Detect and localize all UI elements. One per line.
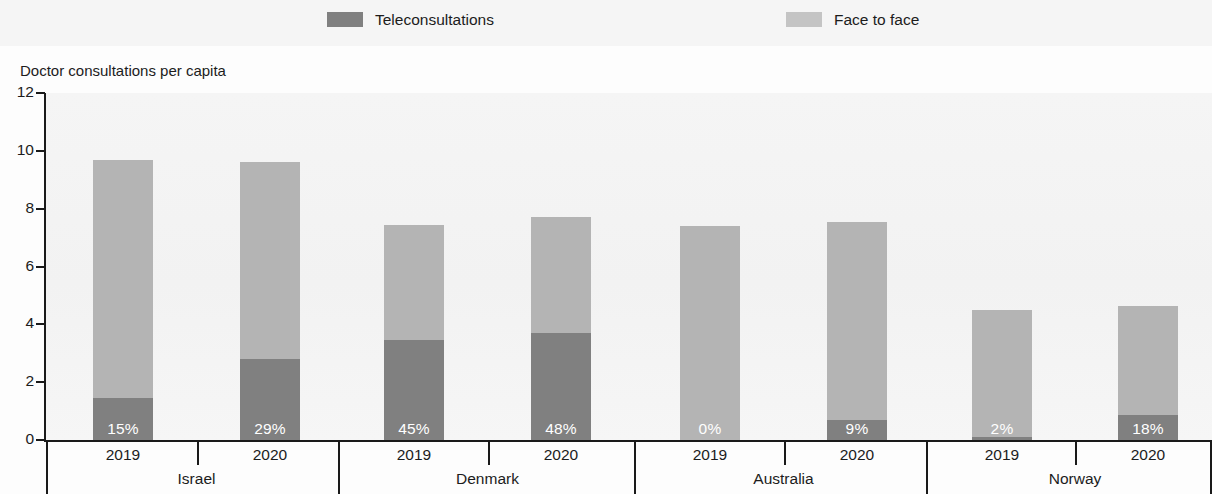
bar-israel-2019: 15% — [93, 160, 153, 440]
bar-segment-face-to-face — [972, 310, 1032, 438]
x-axis-group-label-denmark: Denmark — [398, 470, 578, 488]
bar-percentage-label: 0% — [680, 420, 740, 437]
x-axis-minor-separator — [784, 442, 786, 465]
x-axis-year-label-denmark-2020: 2020 — [511, 446, 611, 464]
bar-segment-face-to-face — [240, 162, 300, 359]
y-axis-tick — [36, 323, 45, 325]
bar-percentage-label: 48% — [531, 420, 591, 437]
bar-australia-2020: 9% — [827, 222, 887, 440]
x-axis-minor-separator — [1075, 442, 1077, 465]
bar-norway-2019: 2% — [972, 310, 1032, 440]
x-axis-year-label-norway-2019: 2019 — [952, 446, 1052, 464]
x-axis-minor-separator — [197, 442, 199, 465]
legend-item-face-to-face: Face to face — [786, 12, 919, 27]
bar-percentage-label: 18% — [1118, 420, 1178, 437]
bar-segment-face-to-face — [680, 226, 740, 440]
x-axis-year-label-israel-2020: 2020 — [220, 446, 320, 464]
x-axis-group-separator — [926, 442, 928, 494]
x-axis-year-label-australia-2020: 2020 — [807, 446, 907, 464]
bar-segment-face-to-face — [384, 225, 444, 341]
chart-page: Teleconsultations Face to face Doctor co… — [0, 0, 1212, 494]
bar-denmark-2020: 48% — [531, 217, 591, 440]
chart-legend: Teleconsultations Face to face — [0, 12, 1212, 38]
x-axis-group-separator — [634, 442, 636, 494]
bar-percentage-label: 45% — [384, 420, 444, 437]
legend-swatch-teleconsultations — [327, 12, 363, 27]
y-axis-tick — [36, 381, 45, 383]
y-axis-tick-label: 0 — [0, 430, 34, 448]
x-axis-group-separator — [46, 442, 48, 494]
y-axis-tick-label: 12 — [0, 83, 34, 101]
legend-swatch-face-to-face — [786, 12, 822, 27]
bar-norway-2020: 18% — [1118, 306, 1178, 440]
y-axis-tick — [36, 266, 45, 268]
x-axis-group-label-australia: Australia — [694, 470, 874, 488]
bar-segment-face-to-face — [1118, 306, 1178, 416]
y-axis-tick — [36, 92, 45, 94]
bar-percentage-label: 9% — [827, 420, 887, 437]
bar-percentage-label: 29% — [240, 420, 300, 437]
bar-segment-face-to-face — [827, 222, 887, 420]
y-axis-tick-label: 4 — [0, 314, 34, 332]
bar-israel-2020: 29% — [240, 162, 300, 440]
y-axis-tick-label: 8 — [0, 199, 34, 217]
x-axis-year-label-denmark-2019: 2019 — [364, 446, 464, 464]
x-axis-group-label-norway: Norway — [985, 470, 1165, 488]
bar-percentage-label: 2% — [972, 420, 1032, 437]
bar-segment-face-to-face — [93, 160, 153, 399]
bar-percentage-label: 15% — [93, 420, 153, 437]
y-axis-tick — [36, 208, 45, 210]
legend-label-teleconsultations: Teleconsultations — [375, 12, 494, 27]
bar-denmark-2019: 45% — [384, 225, 444, 440]
y-axis-tick-label: 6 — [0, 257, 34, 275]
y-axis-title: Doctor consultations per capita — [20, 62, 226, 79]
legend-label-face-to-face: Face to face — [834, 12, 919, 27]
x-axis-minor-separator — [488, 442, 490, 465]
plot-area: 15%29%45%48%0%9%2%18% — [44, 93, 1212, 440]
y-axis-tick-label: 2 — [0, 372, 34, 390]
x-axis-year-label-norway-2020: 2020 — [1098, 446, 1198, 464]
bar-segment-face-to-face — [531, 217, 591, 333]
x-axis-year-label-israel-2019: 2019 — [73, 446, 173, 464]
x-axis-group-label-israel: Israel — [107, 470, 287, 488]
bar-australia-2019: 0% — [680, 226, 740, 440]
x-axis-group-separator — [338, 442, 340, 494]
legend-item-teleconsultations: Teleconsultations — [327, 12, 494, 27]
y-axis-tick — [36, 150, 45, 152]
y-axis-tick-label: 10 — [0, 141, 34, 159]
x-axis-year-label-australia-2019: 2019 — [660, 446, 760, 464]
plot-background — [44, 93, 1212, 440]
x-axis-category-band: 20192020201920202019202020192020IsraelDe… — [44, 442, 1212, 494]
